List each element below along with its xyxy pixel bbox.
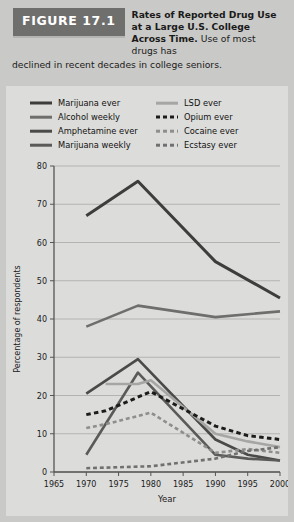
figure-number-badge: FIGURE 17.1 bbox=[13, 8, 125, 36]
tick-label-x: 1980 bbox=[141, 480, 161, 489]
figure-title: Rates of Reported Drug Use at a Large U.… bbox=[132, 6, 282, 58]
tick-label-x: 1990 bbox=[205, 480, 225, 489]
tick-label-y: 40 bbox=[37, 315, 47, 324]
figure-header: FIGURE 17.1 Rates of Reported Drug Use a… bbox=[0, 0, 294, 75]
tick-label-y: 60 bbox=[37, 239, 47, 248]
tick-label-x: 1970 bbox=[76, 480, 96, 489]
chart-panel: Marijuana everLSD everAlcohol weeklyOpiu… bbox=[6, 86, 288, 516]
figure-page: FIGURE 17.1 Rates of Reported Drug Use a… bbox=[0, 0, 294, 522]
tick-label-x: 1965 bbox=[44, 480, 64, 489]
tick-label-y: 10 bbox=[37, 430, 47, 439]
tick-label-y: 70 bbox=[37, 200, 47, 209]
series-line-marijuana-weekly bbox=[86, 373, 280, 461]
tick-label-y: 30 bbox=[37, 353, 47, 362]
tick-label-y: 20 bbox=[37, 392, 47, 401]
tick-label-x: 1995 bbox=[238, 480, 258, 489]
line-chart-svg: 0102030405060708019651970197519801985199… bbox=[6, 86, 288, 516]
y-axis-title: Percentage of respondents bbox=[13, 265, 22, 372]
tick-label-x: 1975 bbox=[108, 480, 128, 489]
x-axis-title: Year bbox=[157, 494, 177, 504]
series-line-alcohol-weekly bbox=[86, 306, 280, 327]
figure-subtitle: declined in recent decades in college se… bbox=[6, 58, 288, 71]
tick-label-y: 50 bbox=[37, 277, 47, 286]
tick-label-x: 2000 bbox=[270, 480, 288, 489]
plot-area: 0102030405060708019651970197519801985199… bbox=[6, 86, 288, 516]
tick-label-x: 1985 bbox=[173, 480, 193, 489]
tick-label-y: 80 bbox=[37, 162, 47, 171]
tick-label-y: 0 bbox=[42, 468, 47, 477]
